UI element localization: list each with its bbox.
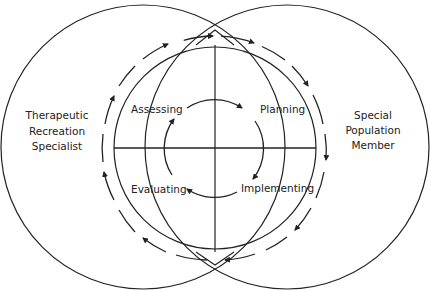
- therapeutic-recreation-process-diagram: Therapeutic Recreation Specialist Specia…: [0, 0, 430, 292]
- right-label-line-3: Member: [351, 139, 395, 151]
- quadrant-label-planning: Planning: [260, 103, 305, 115]
- right-label-line-1: Special: [354, 109, 392, 121]
- quadrant-label-assessing: Assessing: [131, 103, 183, 115]
- left-label-line-3: Specialist: [32, 140, 82, 152]
- right-circle-label: Special Population Member: [345, 109, 400, 151]
- right-label-line-2: Population: [345, 124, 400, 136]
- left-label-line-2: Recreation: [29, 125, 85, 137]
- quadrant-label-implementing: Implementing: [241, 182, 314, 194]
- quadrant-label-evaluating: Evaluating: [131, 183, 187, 195]
- top-intersection-triangle: [196, 30, 234, 45]
- left-circle-label: Therapeutic Recreation Specialist: [25, 109, 89, 152]
- bottom-intersection-triangle: [196, 252, 234, 265]
- left-label-line-1: Therapeutic: [25, 109, 89, 121]
